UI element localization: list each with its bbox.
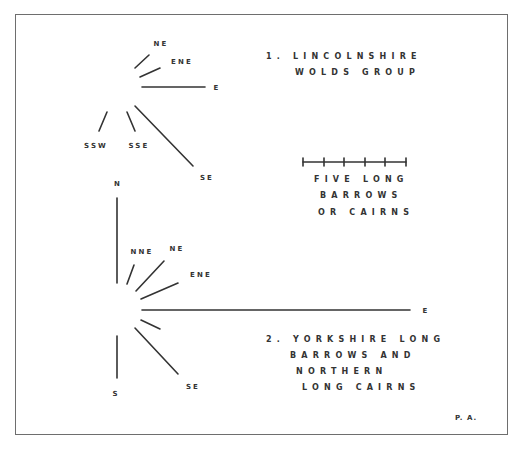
label-sse-1: SSE (128, 142, 149, 150)
ray-nne-2 (127, 265, 134, 284)
label-ne-2: NE (169, 245, 184, 253)
ray-ene-2 (141, 283, 178, 299)
ray-se-2 (135, 328, 178, 374)
scale-label-line3: OR CAIRNS (318, 204, 414, 222)
ray-ne-2 (136, 261, 164, 291)
ray-ene-1 (140, 68, 160, 77)
label-ssw-1: SSW (84, 142, 108, 150)
ray-ese-2 (141, 320, 160, 329)
group2-title-line4: LONG CAIRNS (302, 379, 421, 397)
author-credit: P. A. (455, 414, 477, 422)
ray-se-1 (135, 106, 193, 166)
group1-title-line2: WOLDS GROUP (295, 64, 420, 82)
label-ne-1: NE (153, 40, 168, 48)
label-ene-2: ENE (190, 271, 212, 279)
ray-sse-1 (127, 112, 135, 131)
ray-ssw-1 (99, 112, 107, 131)
label-e-2: E (423, 307, 430, 315)
label-nne-2: NNE (130, 248, 153, 256)
label-ene-1: ENE (171, 58, 193, 66)
label-se-1: SE (200, 174, 214, 182)
label-n-2: N (114, 180, 122, 188)
label-e-1: E (214, 84, 221, 92)
label-se-2: SE (186, 383, 200, 391)
scale-label-line2: BARROWS (320, 187, 402, 205)
ray-ne-1 (135, 55, 149, 68)
orientation-rays (0, 0, 521, 451)
label-s-2: S (112, 390, 119, 398)
